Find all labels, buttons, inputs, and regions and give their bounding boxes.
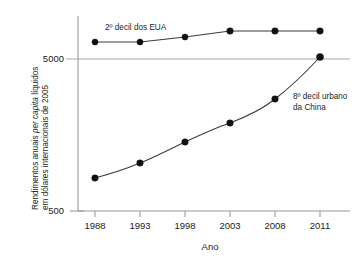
data-point <box>182 34 188 40</box>
series-label-usa: 2º decil dos EUA <box>105 23 167 32</box>
data-point <box>92 39 98 45</box>
series-china <box>92 53 324 181</box>
series-china-line <box>95 57 320 178</box>
chart-figure: Rendimentos anuais per capita líquidos e… <box>0 0 361 263</box>
data-point <box>227 28 234 35</box>
y-axis-label-line-1: Rendimentos anuais per capita líquidos <box>31 67 40 210</box>
x-tick-label-1998: 1998 <box>174 220 195 231</box>
x-tick-label-2008: 2008 <box>264 220 285 231</box>
x-axis-title: Ano <box>202 241 219 252</box>
series-label-china-line-1: 8º decil urbano <box>293 92 348 101</box>
y-axis-label: Rendimentos anuais per capita líquidos e… <box>31 67 50 210</box>
data-point <box>272 96 279 103</box>
data-point <box>182 139 189 146</box>
x-tick-label-1993: 1993 <box>129 220 150 231</box>
data-point <box>137 39 143 45</box>
x-tick-label-2011: 2011 <box>310 220 330 231</box>
y-tick-label-500: 500 <box>48 205 64 216</box>
series-usa-line <box>95 31 320 42</box>
y-tick-label-5000: 5000 <box>43 53 64 64</box>
series-label-china-line-2: da China <box>293 103 326 112</box>
chart-canvas: Rendimentos anuais per capita líquidos e… <box>0 0 361 263</box>
data-point <box>272 28 279 35</box>
data-point <box>316 53 323 60</box>
data-point <box>92 175 99 182</box>
y-axis-label-line-2: em dólares internacionais de 2005 <box>41 84 50 210</box>
data-point <box>227 120 234 127</box>
x-tick-label-2003: 2003 <box>219 220 240 231</box>
data-point <box>317 28 324 35</box>
x-tick-label-1988: 1988 <box>84 220 105 231</box>
series-label-china: 8º decil urbano da China <box>293 92 348 112</box>
data-point <box>137 160 144 167</box>
